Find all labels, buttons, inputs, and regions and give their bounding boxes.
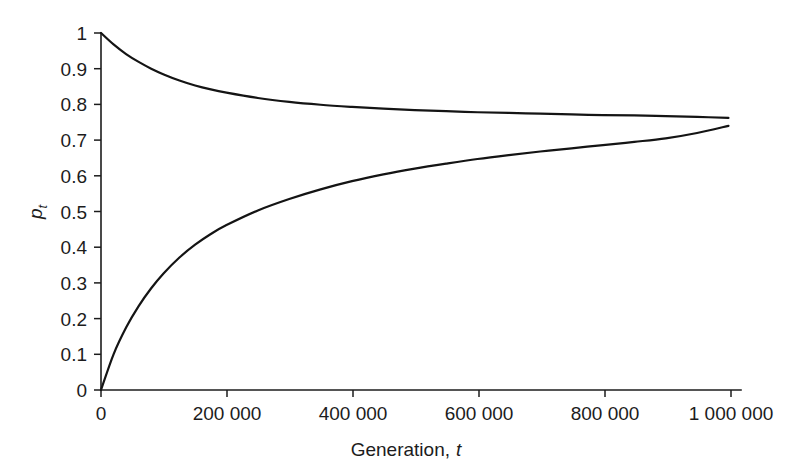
y-tick-label: 0.2	[61, 309, 87, 330]
x-axis-ticks	[101, 390, 731, 397]
svg-text:pt: pt	[25, 204, 50, 221]
y-axis-title: pt	[25, 204, 50, 221]
y-tick-label: 0	[76, 380, 87, 401]
y-axis-ticks	[94, 33, 101, 390]
y-tick-label: 0.6	[61, 166, 87, 187]
x-axis-title-symbol: t	[456, 439, 462, 460]
data-curve-lower	[101, 126, 728, 390]
y-tick-label: 0.3	[61, 273, 87, 294]
x-axis-title-text: Generation,	[351, 439, 450, 460]
svg-text:Generation,t: Generation,t	[351, 439, 462, 460]
data-curve-upper	[101, 33, 728, 118]
chart-plot-area: 1 0.9 0.8 0.7 0.6 0.5 0.4 0.3 0.2 0.1 0 …	[0, 0, 796, 476]
x-tick-label: 0	[96, 403, 107, 424]
chart-figure: 1 0.9 0.8 0.7 0.6 0.5 0.4 0.3 0.2 0.1 0 …	[0, 0, 796, 476]
y-tick-label: 0.8	[61, 94, 87, 115]
y-tick-label: 0.1	[61, 344, 87, 365]
x-axis-tick-labels: 0 200 000 400 000 600 000 800 000 1 000 …	[96, 403, 774, 424]
x-tick-label: 200 000	[193, 403, 262, 424]
x-axis-title: Generation,t	[351, 439, 462, 460]
x-tick-label: 800 000	[571, 403, 640, 424]
y-axis-title-symbol: p	[25, 209, 46, 221]
x-tick-label: 1 000 000	[689, 403, 774, 424]
y-axis-title-subscript: t	[35, 204, 50, 209]
y-tick-label: 0.5	[61, 202, 87, 223]
x-tick-label: 400 000	[319, 403, 388, 424]
y-tick-label: 1	[76, 23, 87, 44]
x-tick-label: 600 000	[445, 403, 514, 424]
y-tick-label: 0.9	[61, 59, 87, 80]
y-tick-label: 0.7	[61, 130, 87, 151]
y-tick-label: 0.4	[61, 237, 88, 258]
y-axis-tick-labels: 1 0.9 0.8 0.7 0.6 0.5 0.4 0.3 0.2 0.1 0	[61, 23, 88, 401]
